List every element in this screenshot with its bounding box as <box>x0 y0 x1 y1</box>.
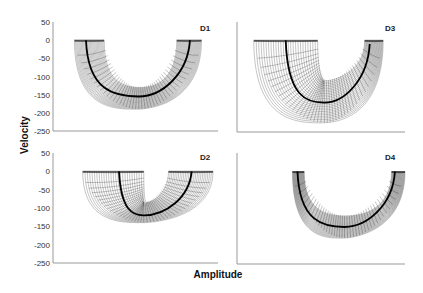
y-axis-title: Velocity <box>19 116 30 154</box>
panel-label: D3 <box>385 24 396 33</box>
y-tick-label: -250 <box>34 259 51 268</box>
panel-d2: 500-50-100-150-200-250 D2 <box>34 149 218 268</box>
y-axis: 500-50-100-150-200-250 <box>34 149 51 268</box>
y-tick-label: -150 <box>34 91 51 100</box>
panel-d4: D4 <box>237 153 405 264</box>
y-tick-label: -150 <box>34 222 51 231</box>
y-tick-label: -200 <box>34 241 51 250</box>
y-tick-label: 50 <box>41 149 50 158</box>
y-tick-label: -50 <box>38 186 50 195</box>
y-tick-label: 0 <box>46 167 51 176</box>
panel-label: D2 <box>200 153 211 162</box>
y-tick-label: -250 <box>34 127 51 136</box>
y-tick-label: 50 <box>41 18 50 27</box>
y-tick-label: 0 <box>46 36 51 45</box>
panel-d3: D3 <box>237 22 405 132</box>
panel-label: D4 <box>385 153 396 162</box>
y-tick-label: -100 <box>34 73 51 82</box>
mesh-band <box>254 40 383 123</box>
mesh-band <box>292 171 405 238</box>
x-axis-title: Amplitude <box>194 269 243 280</box>
panel-label: D1 <box>200 24 211 33</box>
y-tick-label: -100 <box>34 204 51 213</box>
y-axis: 500-50-100-150-200-250 <box>34 18 51 136</box>
figure: Velocity Amplitude 500-50-100-150-200-25… <box>0 0 423 293</box>
y-tick-label: -200 <box>34 109 51 118</box>
y-tick-label: -50 <box>38 54 50 63</box>
panel-d1: 500-50-100-150-200-250 D1 <box>34 18 218 136</box>
